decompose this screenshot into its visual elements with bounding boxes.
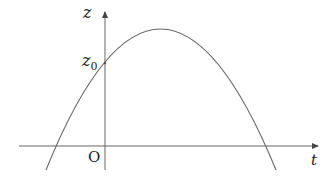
z-axis-label: z [82, 3, 92, 22]
t-axis-label: t [311, 151, 318, 169]
origin-label: O [88, 148, 100, 166]
z0-point [104, 62, 106, 64]
parabola-curve [46, 29, 276, 170]
z0-label: z0 [81, 51, 97, 73]
parabola-diagram: z t O z0 [0, 0, 333, 177]
